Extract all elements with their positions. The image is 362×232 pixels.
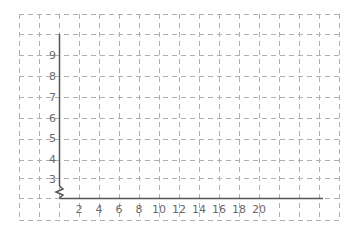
x-tick-label: 20 [249,204,269,216]
y-tick-label: 7 [40,92,56,104]
coordinate-grid: 9 8 7 6 5 4 3 2 4 6 8 10 12 14 16 18 20 [0,0,362,232]
x-tick-label: 8 [129,204,149,216]
y-tick-label: 9 [40,50,56,62]
x-tick-label: 16 [209,204,229,216]
x-tick-label: 4 [89,204,109,216]
axes [56,34,323,199]
y-tick-label: 6 [40,113,56,125]
y-tick-label: 4 [40,154,56,166]
x-tick-label: 12 [169,204,189,216]
x-tick-label: 2 [69,204,89,216]
x-tick-label: 6 [109,204,129,216]
y-tick-label: 3 [40,174,56,186]
x-tick-label: 10 [149,204,169,216]
x-tick-label: 14 [189,204,209,216]
y-tick-label: 5 [40,133,56,145]
x-tick-label: 18 [229,204,249,216]
grid-lines [19,14,340,221]
y-tick-label: 8 [40,71,56,83]
